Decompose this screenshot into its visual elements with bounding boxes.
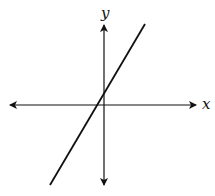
- coordinate-plane: y x: [0, 0, 215, 196]
- y-axis-label: y: [100, 4, 110, 22]
- x-axis-label: x: [202, 95, 211, 113]
